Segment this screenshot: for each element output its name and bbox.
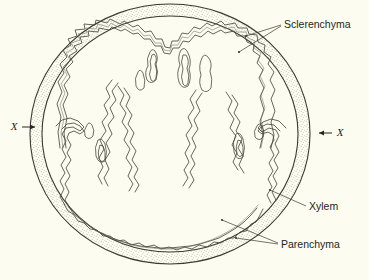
leader-anchor-dot (269, 189, 271, 191)
label-sclerenchyma: Sclerenchyma (284, 18, 351, 30)
section-marker-right-label: X (336, 126, 345, 138)
figure-root: X X Sclerenchyma Xylem Parenchyma (0, 0, 369, 280)
leader-anchor-dot (245, 35, 247, 37)
section-diagram: X X Sclerenchyma Xylem Parenchyma (0, 0, 369, 280)
leader-anchor-dot (235, 237, 237, 239)
leader-anchor-dot (221, 219, 223, 221)
label-parenchyma: Parenchyma (281, 238, 340, 250)
label-xylem: Xylem (309, 200, 338, 212)
section-marker-left-label: X (10, 120, 19, 132)
leader-anchor-dot (238, 51, 240, 53)
